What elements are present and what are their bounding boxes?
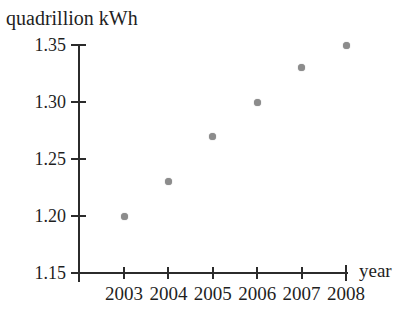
x-tick-label: 2003 (99, 284, 149, 304)
y-tick-label: 1.25 (18, 149, 66, 169)
x-tick-label: 2007 (277, 284, 327, 304)
x-tick-mark (167, 267, 169, 279)
y-tick-label: 1.15 (18, 263, 66, 283)
y-tick-mark (71, 215, 86, 217)
scatter-chart: quadrillion kWh 1.151.201.251.301.35 200… (0, 0, 409, 322)
x-tick-label: 2005 (188, 284, 238, 304)
x-axis-end-cap (345, 265, 347, 281)
x-tick-mark (301, 267, 303, 279)
y-tick-mark (71, 44, 86, 46)
x-tick-label: 2004 (143, 284, 193, 304)
x-tick-label: 2006 (232, 284, 282, 304)
data-point (121, 213, 128, 220)
y-tick-mark (71, 158, 86, 160)
y-tick-label: 1.20 (18, 206, 66, 226)
y-tick-label: 1.35 (18, 35, 66, 55)
x-tick-mark (256, 267, 258, 279)
data-point (209, 133, 216, 140)
data-point (298, 64, 305, 71)
x-tick-mark (212, 267, 214, 279)
x-axis-title: year (359, 260, 392, 282)
y-tick-label: 1.30 (18, 92, 66, 112)
data-point (343, 42, 350, 49)
y-axis-title: quadrillion kWh (6, 6, 138, 30)
data-point (165, 178, 172, 185)
data-point (254, 99, 261, 106)
x-tick-label: 2008 (321, 284, 371, 304)
y-tick-mark (71, 101, 86, 103)
y-axis-line (78, 44, 80, 282)
x-tick-mark (123, 267, 125, 279)
y-tick-mark (71, 272, 86, 274)
